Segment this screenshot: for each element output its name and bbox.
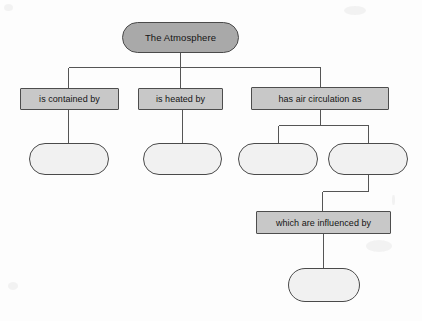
node-is-contained-by[interactable]: is contained by (20, 88, 119, 110)
blank-node-heated-by[interactable] (143, 143, 222, 175)
node-is-heated-by-label: is heated by (156, 94, 205, 104)
concept-map-diagram: The Atmosphere is contained by is heated… (0, 0, 422, 321)
node-the-atmosphere[interactable]: The Atmosphere (122, 22, 239, 53)
node-the-atmosphere-label: The Atmosphere (145, 32, 216, 43)
blank-node-circulation-right[interactable] (328, 143, 408, 175)
node-is-contained-by-label: is contained by (39, 94, 100, 104)
blank-node-influenced-by[interactable] (288, 268, 360, 302)
blank-node-contained-by[interactable] (29, 143, 109, 175)
node-has-air-circulation-as[interactable]: has air circulation as (251, 87, 389, 110)
node-is-heated-by[interactable]: is heated by (138, 88, 223, 110)
node-which-are-influenced-by-label: which are influenced by (276, 218, 371, 228)
node-has-air-circulation-as-label: has air circulation as (278, 94, 361, 104)
node-which-are-influenced-by[interactable]: which are influenced by (256, 211, 391, 234)
blank-node-circulation-left[interactable] (238, 143, 318, 175)
